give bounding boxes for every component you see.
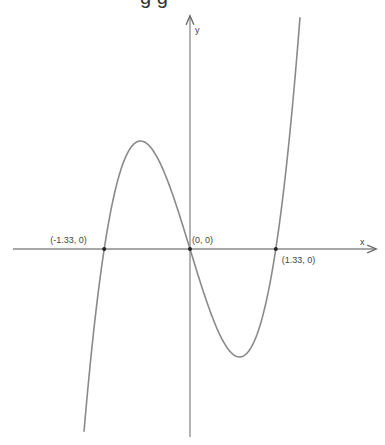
- root-point: [274, 247, 278, 251]
- root-point-label: (-1.33, 0): [50, 235, 87, 245]
- root-point: [188, 247, 192, 251]
- x-axis-label: x: [360, 237, 365, 247]
- root-point-label: (1.33, 0): [282, 255, 316, 265]
- cubic-plot: x y (-1.33, 0)(0, 0)(1.33, 0): [0, 0, 385, 445]
- cubic-curve: [84, 17, 300, 432]
- root-points: (-1.33, 0)(0, 0)(1.33, 0): [50, 235, 315, 265]
- root-point-label: (0, 0): [192, 235, 213, 245]
- y-axis-label: y: [195, 25, 200, 35]
- root-point: [102, 247, 106, 251]
